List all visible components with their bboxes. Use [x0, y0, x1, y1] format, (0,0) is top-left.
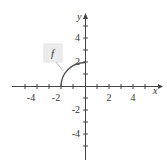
y-tick-label: -4 [72, 128, 80, 139]
y-axis [83, 18, 88, 160]
function-curve-f [61, 63, 85, 87]
y-tick-label: -2 [72, 104, 80, 115]
y-tick-label: 2 [75, 56, 80, 67]
x-tick-label: -4 [27, 92, 35, 103]
y-axis-label: y [76, 11, 82, 22]
x-tick-label: -2 [52, 92, 60, 103]
x-tick-label: 2 [107, 92, 112, 103]
x-axis-label: x [152, 85, 158, 96]
x-tick-label: 4 [131, 92, 136, 103]
y-axis-arrow-icon [83, 13, 88, 19]
y-tick-label: 4 [75, 32, 80, 43]
function-plot: x y -4 -2 2 4 4 2 -2 -4 f [0, 0, 167, 168]
x-axis-arrow-icon [158, 84, 163, 89]
function-callout: f [44, 44, 63, 71]
